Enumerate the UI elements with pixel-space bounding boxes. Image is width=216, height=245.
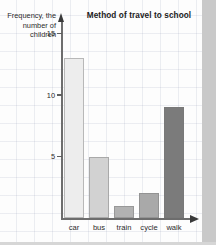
y-tick-label: 5 [39, 152, 55, 161]
chart-title: Method of travel to school [78, 11, 200, 21]
y-tick-mark [57, 33, 62, 34]
bar-cycle [139, 193, 159, 218]
chart-screenshot: Method of travel to school Frequency, th… [0, 0, 216, 245]
x-axis-line [61, 218, 192, 220]
y-axis-arrowhead-icon [58, 13, 64, 22]
y-axis-label-line-1: Frequency, the [2, 11, 56, 21]
bar-walk [164, 107, 184, 218]
y-tick-label: 15 [39, 29, 55, 38]
bar-train [114, 206, 134, 218]
bar-bus [89, 157, 109, 219]
y-tick-mark [57, 94, 62, 95]
bar-car [64, 58, 84, 218]
y-axis-line [61, 22, 63, 219]
bar-chart-plot: Method of travel to school Frequency, th… [0, 0, 216, 245]
y-tick-label: 10 [39, 91, 55, 100]
y-tick-mark [57, 156, 62, 157]
x-category-label-walk: walk [158, 223, 190, 232]
x-axis-arrowhead-icon [190, 215, 199, 223]
